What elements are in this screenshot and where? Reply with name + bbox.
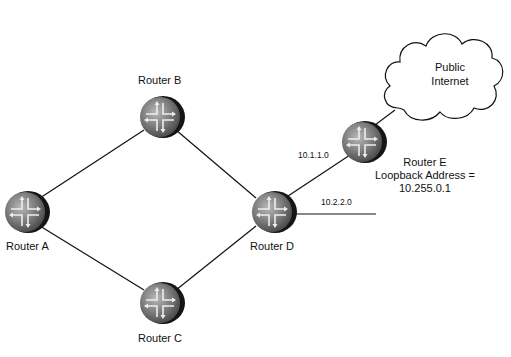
router-e-block: Router E Loopback Address = 10.255.0.1 bbox=[370, 156, 480, 195]
link-d-e bbox=[285, 155, 350, 198]
router-d-label: Router D bbox=[250, 240, 294, 252]
router-c-icon bbox=[140, 282, 185, 324]
link-c-d bbox=[176, 226, 256, 290]
router-c-label: Router C bbox=[138, 332, 182, 344]
link-b-d bbox=[176, 130, 256, 198]
cloud-label: Public Internet bbox=[420, 60, 480, 88]
cloud-label-line1: Public bbox=[420, 60, 480, 74]
router-a-label: Router A bbox=[6, 240, 49, 252]
link-a-c bbox=[40, 226, 144, 290]
router-b-label: Router B bbox=[138, 74, 181, 86]
link-a-b bbox=[40, 130, 144, 198]
router-d-icon bbox=[252, 191, 297, 233]
link-d-e-label: 10.1.1.0 bbox=[298, 150, 329, 160]
link-e-cloud bbox=[375, 110, 395, 125]
cloud-label-line2: Internet bbox=[420, 74, 480, 88]
loopback-label: Loopback Address = bbox=[370, 169, 480, 182]
router-b-icon bbox=[140, 96, 185, 138]
link-d-stub-label: 10.2.2.0 bbox=[321, 197, 352, 207]
router-e-label: Router E bbox=[370, 156, 480, 169]
loopback-address: 10.255.0.1 bbox=[370, 182, 480, 195]
router-a-icon bbox=[5, 191, 50, 233]
